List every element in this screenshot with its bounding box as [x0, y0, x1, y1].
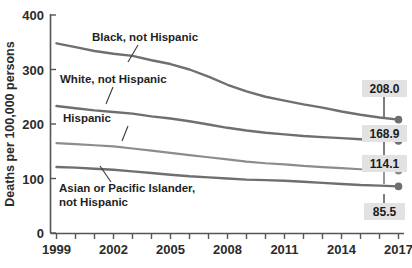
y-tick-label-200: 200	[22, 117, 44, 132]
y-axis-ticks	[51, 15, 57, 233]
annotation-label-asian-line2: not Hispanic	[59, 196, 129, 208]
annotation-black-not-hispanic: Black, not Hispanic	[92, 31, 199, 62]
series-line-hispanic	[57, 143, 399, 171]
annotation-white-not-hispanic: White, not Hispanic	[60, 73, 167, 104]
y-axis-title: Deaths per 100,000 persons	[3, 41, 17, 206]
chart-canvas: 0 100 200 300 400 Deaths per 100,000 per…	[0, 0, 412, 268]
annotation-label-hispanic: Hispanic	[63, 112, 112, 124]
annotation-hispanic: Hispanic	[63, 112, 128, 141]
y-tick-label-400: 400	[22, 8, 44, 23]
x-tick-label-2005: 2005	[156, 242, 185, 257]
value-label-855: 85.5	[364, 203, 405, 220]
value-label-208: 208.0	[362, 80, 407, 97]
value-label-text-208: 208.0	[369, 82, 399, 96]
annotation-label-white: White, not Hispanic	[60, 73, 167, 85]
annotation-asian-pacific-islander: Asian or Pacific Islander, not Hispanic	[59, 166, 195, 208]
end-marker-asian-pacific-islander	[395, 183, 403, 191]
value-label-text-1141: 114.1	[370, 157, 400, 171]
x-tick-label-2002: 2002	[99, 242, 128, 257]
y-tick-label-300: 300	[22, 63, 44, 78]
annotation-leader-hispanic	[122, 126, 128, 141]
y-tick-label-100: 100	[22, 172, 44, 187]
value-label-text-855: 85.5	[373, 205, 397, 219]
annotation-label-asian-line1: Asian or Pacific Islander,	[59, 182, 195, 194]
annotation-leader-black	[128, 45, 138, 62]
line-chart: 0 100 200 300 400 Deaths per 100,000 per…	[0, 0, 412, 268]
y-tick-label-0: 0	[37, 226, 44, 241]
x-tick-label-2017: 2017	[384, 242, 412, 257]
x-tick-label-1999: 1999	[42, 242, 71, 257]
end-marker-black-not-hispanic	[395, 116, 403, 124]
x-tick-label-2011: 2011	[270, 242, 298, 257]
annotation-label-black: Black, not Hispanic	[92, 31, 199, 43]
x-tick-label-2014: 2014	[327, 242, 357, 257]
value-label-text-1689: 168.9	[369, 127, 399, 141]
annotation-leader-white	[106, 87, 113, 104]
x-tick-label-2008: 2008	[213, 242, 242, 257]
value-label-1689: 168.9	[362, 125, 407, 142]
value-label-1141: 114.1	[362, 155, 407, 172]
